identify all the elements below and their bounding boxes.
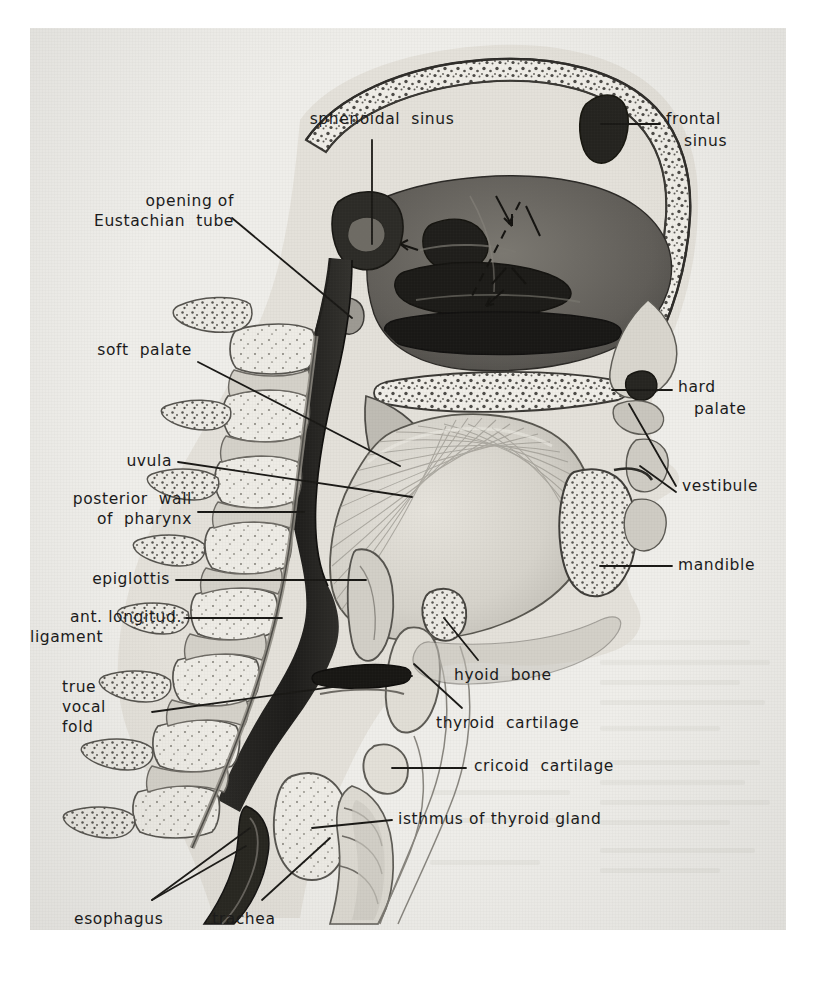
label-thyroid-cartilage: thyroid cartilage (436, 714, 579, 733)
label-ant-ligament-line1: ant. longitud. (26, 608, 182, 627)
anatomical-figure: sphenoidal sinus frontal sinus opening o… (0, 0, 818, 982)
sphenoidal-sinus-structure (332, 192, 403, 270)
label-cricoid-cartilage: cricoid cartilage (474, 757, 614, 776)
label-epiglottis: epiglottis (32, 570, 170, 589)
label-uvula: uvula (56, 452, 172, 471)
label-mandible: mandible (678, 556, 755, 575)
label-hyoid-bone: hyoid bone (454, 666, 552, 685)
label-ant-ligament-line2: ligament (30, 628, 103, 647)
label-frontal-sinus-line1: frontal (666, 110, 721, 129)
label-esophagus: esophagus (74, 910, 163, 929)
label-posterior-wall-line2: of pharynx (26, 510, 192, 529)
label-trachea: trachea (212, 910, 276, 929)
cricoid-cartilage-structure (363, 744, 408, 793)
label-true-vocal-fold-line3: fold (62, 718, 94, 737)
label-posterior-wall-line1: posterior wall (26, 490, 192, 509)
label-isthmus-thyroid-gland: isthmus of thyroid gland (398, 810, 601, 829)
label-eustachian-line2: Eustachian tube (48, 212, 234, 231)
label-soft-palate: soft palate (46, 341, 192, 360)
epiglottis-structure (348, 549, 394, 660)
label-hard-palate-line2: palate (694, 400, 746, 419)
label-vestibule: vestibule (682, 477, 758, 496)
label-frontal-sinus-line2: sinus (684, 132, 727, 151)
label-true-vocal-fold-line1: true (62, 678, 96, 697)
label-eustachian-line1: opening of (56, 192, 234, 211)
label-hard-palate-line1: hard (678, 378, 716, 397)
label-true-vocal-fold-line2: vocal (62, 698, 106, 717)
label-sphenoidal-sinus: sphenoidal sinus (302, 110, 462, 129)
